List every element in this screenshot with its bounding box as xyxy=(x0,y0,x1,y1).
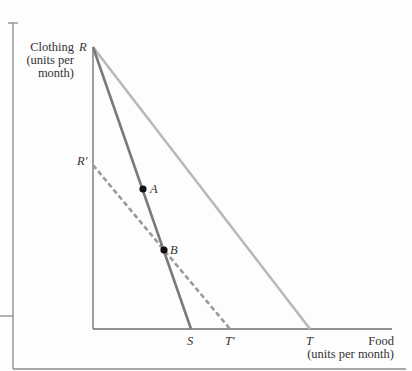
x-axis-label: Food (units per month) xyxy=(290,335,394,361)
point-B xyxy=(160,246,167,253)
x-axis-label-line2: (units per month) xyxy=(290,348,394,361)
label-B: B xyxy=(170,244,178,257)
label-S: S xyxy=(187,335,193,348)
label-R: R xyxy=(79,41,87,54)
label-A: A xyxy=(150,183,158,196)
y-axis-label: Clothing (units per month) xyxy=(18,41,74,80)
budget-line-RT xyxy=(93,47,310,329)
label-R-prime: R′ xyxy=(77,155,87,168)
y-axis-label-line3: month) xyxy=(18,67,74,80)
label-T-prime: T′ xyxy=(225,335,235,348)
budget-line-diagram: Clothing (units per month) R R′ A B S T′… xyxy=(0,0,412,371)
point-A xyxy=(139,185,146,192)
